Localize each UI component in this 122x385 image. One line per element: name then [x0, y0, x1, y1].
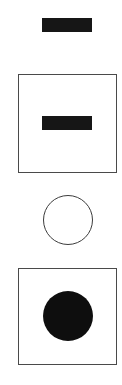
symbol-bar-standalone [0, 0, 122, 50]
circle-outline-icon [43, 195, 93, 245]
horizontal-bar-icon [42, 18, 92, 32]
framed-filled-circle-icon [43, 291, 93, 341]
framed-horizontal-bar-icon [42, 116, 92, 130]
